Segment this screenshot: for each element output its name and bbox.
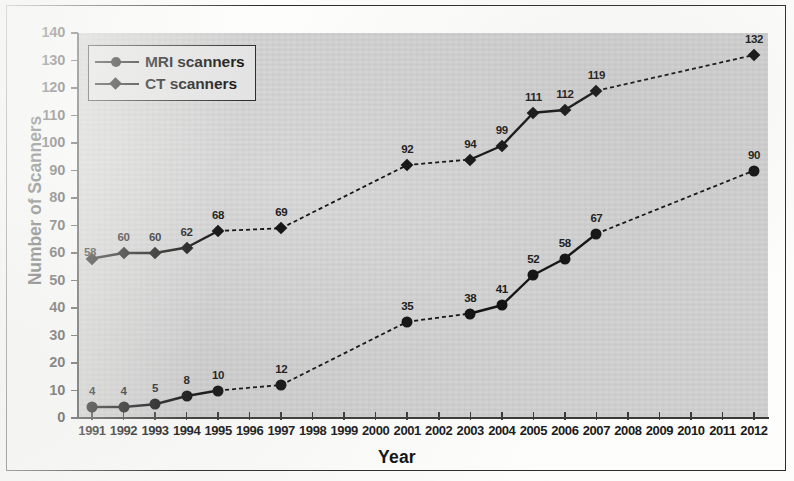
y-axis-tick-label: 90 (49, 162, 65, 178)
x-axis-tick-label: 1992 (110, 423, 137, 438)
x-axis-tick-label: 2012 (740, 423, 767, 438)
y-axis-tick (71, 417, 78, 419)
x-axis-tick-label: 2009 (646, 423, 673, 438)
x-axis-tick-label: 2010 (677, 423, 704, 438)
y-axis-tick-label: 140 (41, 24, 65, 40)
x-axis-tick-label: 2006 (551, 423, 578, 438)
x-axis-tick (312, 412, 314, 420)
series-segment (281, 322, 407, 385)
x-axis-tick (217, 412, 219, 420)
data-point-value-label: 69 (275, 206, 287, 218)
mri-data-point (276, 380, 287, 391)
mri-data-point (181, 391, 192, 402)
y-axis-tick-label: 10 (49, 382, 65, 398)
y-axis-tick (71, 362, 78, 364)
y-axis-tick (71, 307, 78, 309)
series-segment (596, 55, 754, 91)
y-axis-tick-label: 110 (42, 107, 65, 123)
chart-legend: MRI scanners CT scanners (88, 45, 256, 101)
mri-data-point (749, 165, 760, 176)
x-axis-tick (659, 412, 661, 420)
mri-data-point (87, 402, 98, 413)
data-point-value-label: 112 (556, 88, 573, 100)
y-axis-tick-label: 70 (49, 217, 65, 233)
y-axis-tick-label: 60 (49, 244, 65, 260)
x-axis-tick (470, 412, 472, 420)
data-point-value-label: 10 (212, 369, 224, 381)
x-axis-tick-label: 1996 (236, 423, 263, 438)
x-axis-tick (564, 412, 566, 420)
legend-label-ct: CT scanners (145, 75, 237, 93)
x-axis-tick (690, 412, 692, 420)
x-axis-tick (280, 412, 282, 420)
y-axis-tick-label: 40 (49, 299, 65, 315)
x-axis-tick-label: 1991 (78, 423, 105, 438)
mri-data-point (559, 253, 570, 264)
x-axis-tick-label: 2007 (583, 423, 610, 438)
y-axis-title: Number of Scanners (25, 71, 46, 331)
data-point-value-label: 60 (118, 231, 130, 243)
y-axis-tick-label: 130 (41, 52, 65, 68)
y-axis-tick-label: 20 (49, 354, 65, 370)
x-axis-tick-label: 1993 (141, 423, 168, 438)
data-point-value-label: 52 (527, 253, 539, 265)
x-axis-tick (343, 412, 345, 420)
x-axis-tick-label: 1998 (299, 423, 326, 438)
y-axis-tick (71, 142, 78, 144)
data-point-value-label: 67 (590, 212, 602, 224)
mri-data-point (402, 316, 413, 327)
x-axis-tick-label: 1995 (204, 423, 231, 438)
y-axis-tick (71, 32, 78, 34)
data-point-value-label: 62 (181, 226, 193, 238)
data-point-value-label: 68 (212, 209, 224, 221)
data-point-value-label: 8 (184, 374, 190, 386)
series-segment (218, 228, 281, 231)
legend-item-mri: MRI scanners (95, 51, 245, 73)
data-point-value-label: 12 (275, 363, 287, 375)
mri-data-point (591, 228, 602, 239)
x-axis-tick (406, 412, 408, 420)
mri-data-point (528, 270, 539, 281)
x-axis-tick-label: 1999 (331, 423, 358, 438)
x-axis-tick (249, 412, 251, 420)
data-point-value-label: 5 (152, 382, 158, 394)
data-point-value-label: 111 (525, 91, 542, 103)
y-axis-tick-label: 80 (49, 189, 65, 205)
x-axis-tick-label: 2003 (457, 423, 484, 438)
data-point-value-label: 94 (464, 138, 476, 150)
x-axis-tick-label: 2004 (488, 423, 515, 438)
circle-marker-icon (95, 55, 139, 69)
mri-data-point (465, 308, 476, 319)
y-axis-tick (71, 390, 78, 392)
series-segment (407, 160, 470, 166)
x-axis-tick-label: 2002 (425, 423, 452, 438)
diamond-marker-icon (95, 77, 139, 91)
data-point-value-label: 38 (464, 292, 476, 304)
mri-data-point (118, 402, 129, 413)
mri-data-point (150, 399, 161, 410)
x-axis-tick (375, 412, 377, 420)
x-axis-tick-label: 1997 (267, 423, 294, 438)
x-axis-tick-label: 2000 (362, 423, 389, 438)
y-axis-tick-label: 0 (57, 409, 65, 425)
x-axis-tick (753, 412, 755, 420)
y-axis-tick-label: 50 (49, 272, 65, 288)
x-axis-tick (627, 412, 629, 420)
mri-data-point (213, 385, 224, 396)
x-axis-tick (438, 412, 440, 420)
y-axis-tick (71, 87, 78, 89)
x-axis-tick (533, 412, 535, 420)
x-axis-tick-label: 2001 (394, 423, 421, 438)
legend-label-mri: MRI scanners (145, 53, 245, 71)
y-axis-tick (71, 197, 78, 199)
x-axis-tick-label: 2008 (614, 423, 641, 438)
data-point-value-label: 119 (588, 69, 605, 81)
data-point-value-label: 60 (149, 231, 161, 243)
data-point-value-label: 58 (84, 246, 96, 258)
data-point-value-label: 132 (745, 33, 763, 45)
x-axis-tick-label: 2011 (709, 423, 736, 438)
x-axis-tick (123, 412, 125, 420)
x-axis-tick-label: 1994 (173, 423, 200, 438)
data-point-value-label: 92 (401, 143, 413, 155)
y-axis-tick (71, 60, 78, 62)
